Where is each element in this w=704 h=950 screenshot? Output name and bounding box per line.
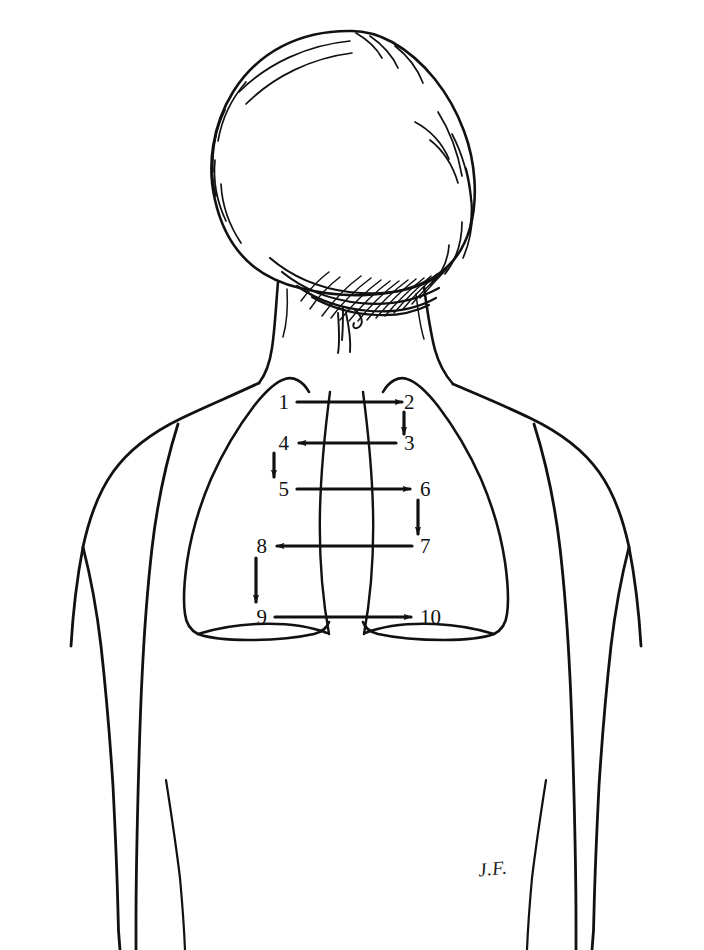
torso-outline xyxy=(71,383,641,950)
head-outline xyxy=(211,31,474,295)
sequence-label-9: 9 xyxy=(257,607,268,628)
anatomy-illustration xyxy=(0,0,704,950)
spine-lines xyxy=(320,392,373,634)
sequence-label-2: 2 xyxy=(404,392,415,413)
sequence-label-3: 3 xyxy=(404,433,415,454)
sequence-label-10: 10 xyxy=(420,607,441,628)
sequence-label-6: 6 xyxy=(420,479,431,500)
neck xyxy=(259,282,453,384)
sequence-label-5: 5 xyxy=(279,479,290,500)
sequence-label-1: 1 xyxy=(279,392,290,413)
sequence-label-7: 7 xyxy=(420,536,431,557)
artist-signature: J.F. xyxy=(477,857,508,882)
nape-center-tuft xyxy=(338,307,362,353)
hair-strokes xyxy=(212,33,472,285)
sequence-label-4: 4 xyxy=(279,433,290,454)
sequence-label-8: 8 xyxy=(257,536,268,557)
figure-canvas: 1 2 3 4 5 6 7 8 9 10 J.F. xyxy=(0,0,704,950)
lung-fields-outline xyxy=(184,378,508,640)
